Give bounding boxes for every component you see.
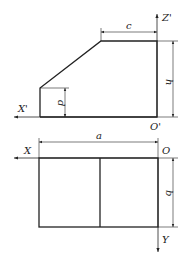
label-o-prime: O' (150, 121, 161, 132)
label-o: O (162, 145, 170, 156)
orthographic-projection-diagram: Z' X' O' c h d X O Y a b (0, 0, 189, 267)
label-b: b (164, 190, 175, 196)
top-view: X O Y a b (14, 130, 178, 252)
label-c: c (126, 20, 132, 31)
label-d: d (56, 100, 67, 106)
top-view-outline (39, 158, 158, 227)
label-x-prime: X' (17, 103, 28, 114)
label-x: X (23, 145, 32, 156)
label-a: a (96, 130, 102, 141)
label-y: Y (162, 234, 170, 245)
front-view: Z' X' O' c h d (14, 12, 178, 132)
label-h: h (164, 79, 175, 85)
label-z-prime: Z' (161, 12, 172, 23)
